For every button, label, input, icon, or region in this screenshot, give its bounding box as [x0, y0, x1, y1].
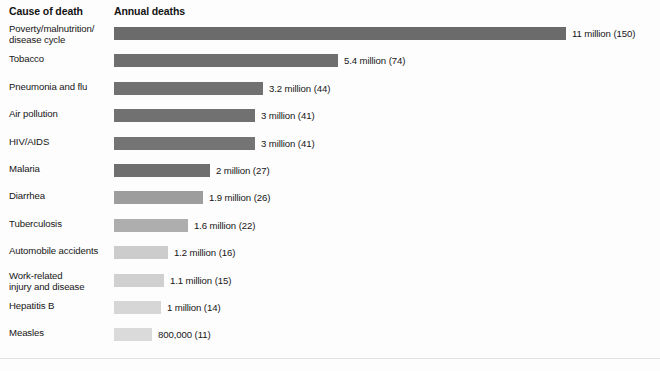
bar-track: 5.4 million (74)	[114, 53, 660, 80]
bar-track: 2 million (27)	[114, 163, 660, 190]
chart-rows: Poverty/malnutrition/disease cycle11 mil…	[0, 26, 660, 355]
chart-row: Work-relatedinjury and disease1.1 millio…	[0, 273, 660, 300]
bar-track: 11 million (150)	[114, 26, 660, 53]
row-label-cause: Work-relatedinjury and disease	[9, 270, 111, 293]
bar-value-label: 2 million (27)	[216, 164, 270, 177]
row-label-cause: Pneumonia and flu	[9, 81, 111, 92]
row-label-cause: Diarrhea	[9, 190, 111, 201]
bar-track: 1.1 million (15)	[114, 273, 660, 300]
bar	[114, 191, 203, 204]
row-label-cause: HIV/AIDS	[9, 136, 111, 147]
bar	[114, 27, 566, 40]
chart-row: Measles800,000 (11)	[0, 327, 660, 354]
bar-track: 3 million (41)	[114, 108, 660, 135]
row-label-cause: Air pollution	[9, 108, 111, 119]
bar	[114, 274, 164, 287]
bar-value-label: 3 million (41)	[261, 109, 315, 122]
row-label-cause: Poverty/malnutrition/disease cycle	[9, 23, 111, 46]
bar	[114, 82, 263, 95]
chart-row: Malaria2 million (27)	[0, 163, 660, 190]
bar-chart: Cause of death Annual deaths Poverty/mal…	[0, 0, 660, 371]
bar-value-label: 5.4 million (74)	[344, 54, 405, 67]
row-label-cause: Automobile accidents	[9, 245, 111, 256]
row-label-cause-line2: injury and disease	[9, 281, 85, 292]
chart-row: HIV/AIDS3 million (41)	[0, 136, 660, 163]
bar-track: 3.2 million (44)	[114, 81, 660, 108]
bar-value-label: 800,000 (11)	[158, 328, 211, 341]
bar-track: 1.6 million (22)	[114, 218, 660, 245]
column-headers: Cause of death Annual deaths	[0, 4, 660, 20]
chart-row: Automobile accidents1.2 million (16)	[0, 245, 660, 272]
bar-value-label: 1.6 million (22)	[194, 219, 255, 232]
bottom-divider	[0, 358, 660, 359]
row-label-cause: Tuberculosis	[9, 218, 111, 229]
chart-row: Poverty/malnutrition/disease cycle11 mil…	[0, 26, 660, 53]
bar-track: 1 million (14)	[114, 300, 660, 327]
bar	[114, 328, 152, 341]
bar-value-label: 1.9 million (26)	[209, 191, 270, 204]
bar-value-label: 3.2 million (44)	[269, 82, 330, 95]
bar-track: 3 million (41)	[114, 136, 660, 163]
bar-track: 800,000 (11)	[114, 327, 660, 354]
bar-value-label: 1.1 million (15)	[170, 274, 231, 287]
chart-row: Tuberculosis1.6 million (22)	[0, 218, 660, 245]
bar	[114, 164, 210, 177]
bar-track: 1.2 million (16)	[114, 245, 660, 272]
bar	[114, 137, 255, 150]
bar	[114, 54, 338, 67]
row-label-cause: Hepatitis B	[9, 300, 111, 311]
chart-row: Hepatitis B1 million (14)	[0, 300, 660, 327]
chart-row: Air pollution3 million (41)	[0, 108, 660, 135]
bar-value-label: 11 million (150)	[572, 27, 635, 40]
row-label-cause-line2: disease cycle	[9, 34, 65, 45]
bar	[114, 109, 255, 122]
row-label-cause: Malaria	[9, 163, 111, 174]
bar-value-label: 1 million (14)	[167, 301, 221, 314]
chart-row: Diarrhea1.9 million (26)	[0, 190, 660, 217]
chart-row: Tobacco5.4 million (74)	[0, 53, 660, 80]
row-label-cause: Tobacco	[9, 53, 111, 64]
chart-row: Pneumonia and flu3.2 million (44)	[0, 81, 660, 108]
bar-track: 1.9 million (26)	[114, 190, 660, 217]
bar	[114, 301, 161, 314]
header-cause-of-death: Cause of death	[9, 4, 83, 18]
bar	[114, 246, 168, 259]
bar-value-label: 1.2 million (16)	[174, 246, 235, 259]
row-label-cause: Measles	[9, 327, 111, 338]
header-annual-deaths: Annual deaths	[114, 4, 185, 18]
bar-value-label: 3 million (41)	[261, 137, 315, 150]
bar	[114, 219, 188, 232]
